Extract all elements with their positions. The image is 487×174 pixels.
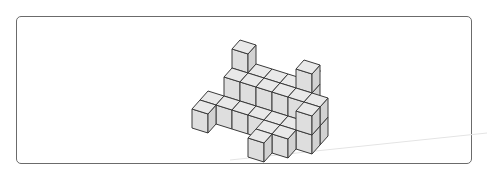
isometric-cube-structure	[0, 0, 487, 174]
